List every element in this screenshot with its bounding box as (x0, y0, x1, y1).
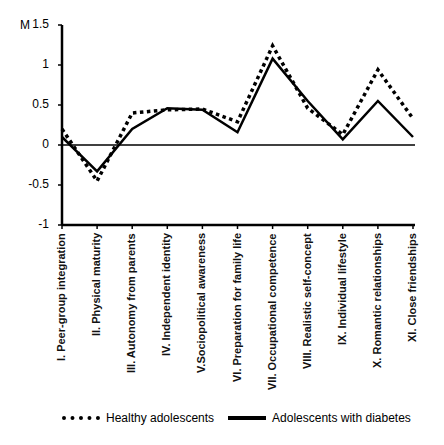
x-category-label: IX. Individual lifestyle (336, 233, 348, 345)
y-tick-label: -0.5 (15, 177, 49, 191)
x-category-label: VI. Preparation for family life (231, 233, 243, 382)
legend: Healthy adolescents Adolescents with dia… (62, 411, 425, 425)
y-tick-label: 0.5 (15, 97, 49, 111)
y-tick-label: 0 (15, 137, 49, 151)
y-tick-label: 1.5 (15, 17, 49, 31)
series-diabetes-line (62, 59, 413, 172)
x-category-label: X. Romantic relationships (371, 233, 383, 368)
x-category-label: I. Peer-group integration (55, 233, 67, 361)
legend-label-diabetes: Adolescents with diabetes (272, 411, 411, 425)
dotted-line-swatch-icon (62, 416, 100, 420)
x-category-label: VII. Occupational competence (266, 234, 278, 391)
x-category-label: V.Sociopolitical awareness (195, 233, 207, 373)
series-healthy-line (62, 46, 413, 181)
legend-item-diabetes: Adolescents with diabetes (228, 411, 411, 425)
solid-line-swatch-icon (228, 416, 266, 420)
line-chart (0, 0, 444, 445)
legend-label-healthy: Healthy adolescents (106, 411, 214, 425)
x-category-label: IV. Independent identity (160, 233, 172, 356)
x-category-label: III. Autonomy from parents (125, 233, 137, 373)
x-category-label: VIII. Realistic self-concept (301, 233, 313, 369)
x-category-label: II. Physical maturity (90, 233, 102, 336)
x-category-label: XI. Close friendships (406, 233, 418, 342)
y-tick-label: 1 (15, 57, 49, 71)
y-tick-label: -1 (15, 217, 49, 231)
legend-item-healthy: Healthy adolescents (62, 411, 214, 425)
